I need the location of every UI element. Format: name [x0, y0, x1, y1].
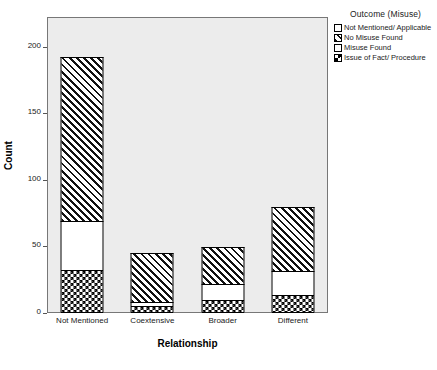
y-tick-150: 150: [0, 113, 47, 114]
bar-coextensive: [131, 253, 174, 313]
bar-slot-coextensive: [117, 17, 187, 313]
legend-item-no-misuse-found: No Misuse Found: [334, 33, 437, 42]
segment-no-misuse-found: [201, 247, 244, 284]
segment-issue-of-fact-procedure: [61, 270, 104, 313]
y-tick-50: 50: [0, 246, 47, 247]
legend-title: Outcome (Misuse): [334, 9, 437, 19]
x-tick-label-not-mentioned: Not Mentioned: [47, 316, 117, 332]
x-axis: Not Mentioned Coextensive Broader Differ…: [47, 316, 328, 332]
segment-misuse-found: [271, 271, 314, 295]
bar-slot-broader: [188, 17, 258, 313]
x-axis-title: Relationship: [47, 338, 328, 349]
y-tick-200: 200: [0, 47, 47, 48]
legend-swatch-dots-icon: [334, 44, 342, 52]
segment-issue-of-fact-procedure: [201, 300, 244, 313]
segment-issue-of-fact-procedure: [131, 306, 174, 313]
y-axis: 200 150 100 50 0 Count: [0, 0, 47, 330]
y-tick-0: 0: [0, 313, 47, 314]
bar-broader: [201, 247, 244, 313]
legend-label: No Misuse Found: [344, 33, 403, 42]
x-tick-label-broader: Broader: [188, 316, 258, 332]
legend-label: Misuse Found: [344, 43, 391, 52]
segment-misuse-found: [201, 284, 244, 300]
y-tick-label: 50: [32, 240, 41, 250]
y-tick-label: 200: [28, 41, 41, 51]
bar-slot-different: [258, 17, 328, 313]
segment-issue-of-fact-procedure: [271, 295, 314, 313]
legend-swatch-checkerboard-icon: [334, 54, 342, 62]
segment-no-misuse-found: [131, 253, 174, 302]
legend-item-issue-of-fact-procedure: Issue of Fact/ Procedure: [334, 53, 437, 62]
bar-group: [47, 17, 328, 313]
x-tick-label-different: Different: [258, 316, 328, 332]
legend-item-not-mentioned-applicable: Not Mentioned/ Applicable: [334, 23, 437, 32]
legend: Outcome (Misuse) Not Mentioned/ Applicab…: [334, 9, 437, 63]
segment-no-misuse-found: [61, 57, 104, 221]
legend-swatch-blank-icon: [334, 24, 342, 32]
y-tick-label: 150: [28, 107, 41, 117]
bar-slot-not-mentioned: [47, 17, 117, 313]
legend-label: Not Mentioned/ Applicable: [344, 23, 431, 32]
legend-item-misuse-found: Misuse Found: [334, 43, 437, 52]
bar-different: [271, 207, 314, 313]
y-tick-label: 0: [37, 307, 41, 317]
x-tick-label-coextensive: Coextensive: [117, 316, 187, 332]
y-tick-mark: [43, 313, 47, 314]
legend-label: Issue of Fact/ Procedure: [344, 53, 426, 62]
bar-chart: 200 150 100 50 0 Count: [0, 0, 437, 370]
bar-not-mentioned: [61, 57, 104, 313]
segment-no-misuse-found: [271, 207, 314, 271]
legend-swatch-hatch-icon: [334, 34, 342, 42]
y-axis-title: Count: [3, 126, 14, 186]
segment-misuse-found: [61, 221, 104, 270]
y-tick-label: 100: [28, 174, 41, 184]
